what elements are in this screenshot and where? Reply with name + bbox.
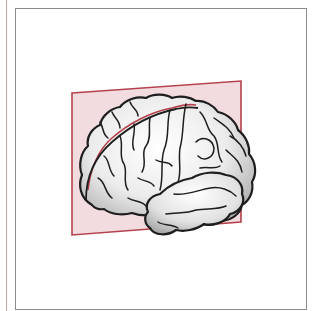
brain-illustration	[0, 0, 317, 311]
